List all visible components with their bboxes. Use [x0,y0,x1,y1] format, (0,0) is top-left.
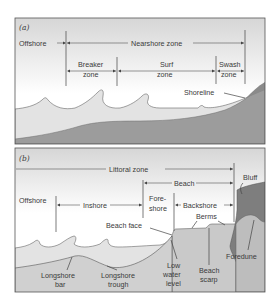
label-backshore: Backshore [183,201,217,210]
panel-b-beach [172,224,236,300]
panel-a-label: (a) [19,23,29,32]
label-swash-zone: zone [221,70,237,79]
label-offshore-a: Offshore [19,39,46,48]
label-beach: Beach [174,179,194,188]
label-longshore-bar-2: bar [55,280,66,289]
label-surf-zone: zone [157,70,173,79]
label-offshore-b: Offshore [19,196,46,205]
label-beach-scarp-2: scarp [200,275,218,284]
label-shoreline: Shoreline [184,88,214,97]
label-low-water-1: Low [167,261,181,270]
label-berms: Berms [196,212,217,221]
label-longshore-trough-1: Longshore [101,271,135,280]
label-longshore-bar-1: Longshore [41,271,75,280]
label-breaker-zone: zone [83,70,99,79]
panel-b-label: (b) [19,154,30,163]
label-foredune: Foredune [226,252,257,261]
label-longshore-trough-2: trough [108,280,128,289]
label-surf: Surf [160,60,173,69]
label-foreshore-2: shore [149,204,167,213]
panel-a: (a) Offshore Nearshore zone Breaker zone… [15,18,265,144]
label-breaker: Breaker [78,60,104,69]
label-low-water-2: water [162,270,181,279]
label-beach-face: Beach face [106,221,142,230]
label-littoral-zone: Littoral zone [109,165,148,174]
coastal-zones-diagram: (a) Offshore Nearshore zone Breaker zone… [0,0,277,305]
label-low-water-3: level [166,279,181,288]
label-nearshore-zone: Nearshore zone [131,39,182,48]
label-bluff: Bluff [243,173,257,182]
label-foreshore-1: Fore- [149,194,167,203]
label-beach-scarp-1: Beach [199,266,219,275]
panel-b: (b) Littoral zone Beach Offshore Inshore… [15,148,265,300]
label-inshore: Inshore [83,201,107,210]
label-swash: Swash [219,60,241,69]
